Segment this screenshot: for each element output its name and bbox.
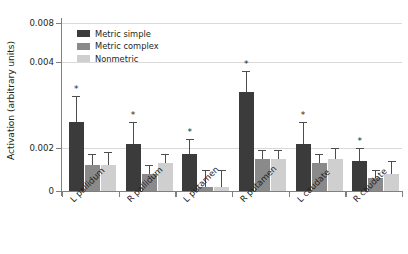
legend-label: Nonmetric [95, 54, 138, 64]
error-bar [274, 150, 282, 159]
error-bar [161, 154, 169, 163]
significance-asterisk: * [187, 128, 192, 137]
error-bar-stem [359, 148, 360, 161]
error-bar [299, 122, 307, 144]
error-bar [129, 122, 137, 144]
error-bar-stem [319, 154, 320, 163]
significance-asterisk: * [74, 85, 79, 94]
error-bar [242, 71, 250, 93]
error-bar-stem [391, 161, 392, 174]
error-bar [356, 148, 364, 161]
x-tick-mark [175, 192, 176, 197]
bar [69, 122, 84, 191]
error-bar-stem [278, 150, 279, 159]
x-tick-mark [402, 192, 403, 197]
error-bar-stem [221, 170, 222, 187]
legend-swatch [77, 43, 90, 50]
error-bar-stem [246, 71, 247, 93]
legend-item: Nonmetric [77, 53, 159, 64]
error-bar [186, 139, 194, 154]
significance-asterisk: * [357, 137, 362, 146]
bar [239, 92, 254, 191]
error-bar-stem [303, 122, 304, 144]
x-tick-mark [289, 192, 290, 197]
bar [384, 174, 399, 191]
x-tick-mark [62, 192, 63, 197]
y-axis-title: Activation (arbitrary units) [0, 0, 20, 200]
significance-asterisk: * [131, 111, 136, 120]
x-tick-mark [345, 192, 346, 197]
legend-label: Metric simple [95, 29, 151, 39]
error-bar [88, 154, 96, 165]
legend-swatch [77, 55, 90, 62]
gridline [62, 23, 402, 24]
error-bar-stem [189, 139, 190, 154]
legend-label: Metric complex [95, 41, 159, 51]
error-bar-stem [76, 96, 77, 122]
error-bar-stem [165, 154, 166, 163]
y-tick-label: 0.002 [0, 143, 54, 153]
legend-swatch [77, 30, 90, 37]
error-bar-stem [133, 122, 134, 144]
error-bar-stem [262, 150, 263, 159]
error-bar [258, 150, 266, 159]
y-tick-label: 0.004 [0, 57, 54, 67]
error-bar [72, 96, 80, 122]
error-bar [104, 152, 112, 165]
error-bar [315, 154, 323, 163]
y-tick-label: 0 [0, 186, 54, 196]
significance-asterisk: * [301, 111, 306, 120]
chart-legend: Metric simpleMetric complexNonmetric [77, 28, 159, 66]
x-tick-mark [119, 192, 120, 197]
legend-item: Metric simple [77, 28, 159, 39]
significance-asterisk: * [244, 60, 249, 69]
gridline [62, 148, 402, 149]
bar-chart-figure: Activation (arbitrary units) 00.0020.004… [0, 0, 408, 254]
error-bar-stem [108, 152, 109, 165]
legend-item: Metric complex [77, 41, 159, 52]
error-bar [388, 161, 396, 174]
error-bar [331, 148, 339, 159]
bar [214, 187, 229, 191]
x-tick-mark [232, 192, 233, 197]
y-tick-label: 0.008 [0, 18, 54, 28]
error-bar-stem [92, 154, 93, 165]
error-bar-stem [335, 148, 336, 159]
